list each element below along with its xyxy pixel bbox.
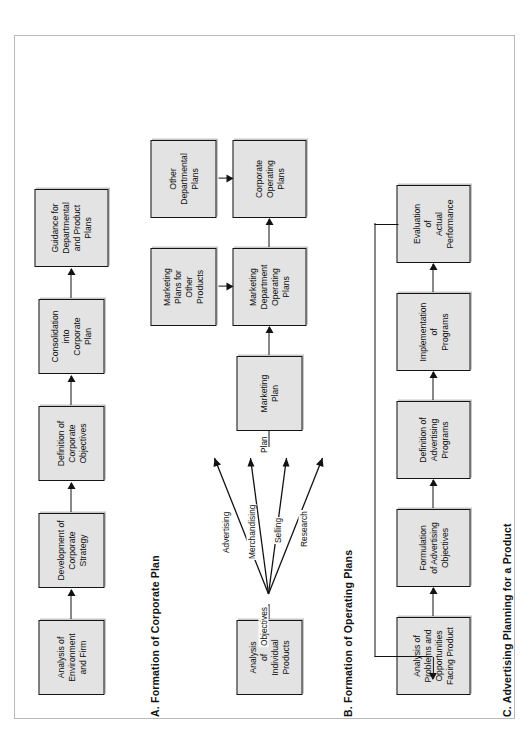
box-c-implementation-programs: ImplementationofPrograms (396, 293, 470, 371)
arrow-b-other-dept-to-corporate (218, 178, 232, 179)
box-b-corporate-operating-plans: CorporateOperatingPlans (232, 140, 306, 218)
box-b-marketing-plan: MarketingPlan (236, 356, 302, 431)
arrow-a-1 (70, 590, 71, 619)
feedback-loop-riser (374, 224, 398, 225)
section-c: C. Advertising Planning for a Product An… (366, 35, 515, 719)
fan-branch-selling: Selling (272, 517, 282, 544)
arrow-b-marketing-plan-to-dept (268, 327, 269, 355)
arrow-b-other-products-to-dept (218, 286, 232, 287)
section-a: A. Formation of Corporate Plan Analysis … (14, 35, 164, 719)
box-a-definition-objectives: Definition ofCorporateObjectives (38, 406, 104, 481)
box-a-development-strategy: Development ofCorporateStrategy (38, 513, 104, 588)
arrow-a-4 (70, 269, 71, 298)
box-a-analysis-environment: Analysis ofEnvironmentand Firm (38, 620, 104, 695)
arrow-a-2 (70, 483, 71, 512)
box-c-formulation-objectives: Formulationof AdvertisingObjectives (396, 509, 470, 587)
figure-canvas: A. Formation of Corporate Plan Analysis … (14, 35, 515, 719)
fan-branch-merchandising: Merchandising (246, 504, 256, 560)
arrow-c-2 (432, 480, 433, 508)
arrow-b-dept-to-corporate (268, 219, 269, 247)
fan-label-objectives: Objectives (258, 606, 268, 647)
feedback-loop-top (374, 223, 375, 657)
fan-branch-research: Research (298, 510, 308, 548)
line-b-plan-to-marketing (268, 431, 269, 447)
fan-label-plan: Plan (258, 435, 268, 454)
feedback-loop-arrowhead (432, 657, 433, 679)
box-b-other-departmental-plans: OtherDepartmentalPlans (150, 140, 216, 218)
arrow-c-3 (432, 372, 433, 400)
box-b-marketing-plans-other-products: MarketingPlans forOtherProducts (150, 248, 216, 326)
box-a-guidance: Guidance forDepartmentaland ProductPlans (34, 189, 108, 267)
figure-rotation-wrapper: A. Formation of Corporate Plan Analysis … (14, 35, 515, 719)
feedback-loop-drop (374, 656, 432, 657)
box-b-analysis-individual-products: AnalysisofIndividualProducts (236, 620, 302, 695)
fan-objectives-to-plan: Objectives Plan Advertising Merchandisin… (202, 446, 334, 606)
box-b-marketing-department-operating-plans: MarketingDepartmentOperatingPlans (232, 248, 306, 326)
fan-branch-advertising: Advertising (220, 511, 230, 554)
section-c-title: C. Advertising Planning for a Product (500, 523, 512, 717)
section-b: B. Formation of Operating Plans Analysis… (174, 35, 359, 719)
section-b-title: B. Formation of Operating Plans (341, 550, 353, 717)
section-a-title: A. Formation of Corporate Plan (148, 555, 160, 717)
box-c-evaluation-performance: EvaluationofActualPerformance (396, 185, 470, 263)
box-a-consolidation: ConsolidationintoCorporatePlan (38, 299, 104, 374)
box-c-definition-programs: Definition ofAdvertisingPrograms (396, 401, 470, 479)
arrow-c-4 (432, 264, 433, 292)
arrow-c-1 (432, 588, 433, 616)
arrow-a-3 (70, 376, 71, 405)
